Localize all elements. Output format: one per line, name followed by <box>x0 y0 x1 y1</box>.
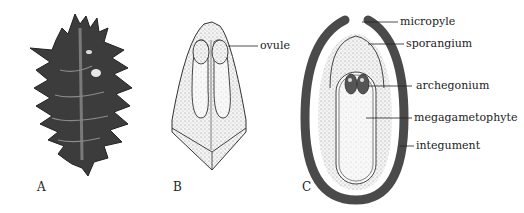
panel-c-ovule <box>305 20 414 200</box>
label-integument: integument <box>416 140 480 151</box>
figure-canvas <box>0 0 524 213</box>
label-megagametophyte: megagametophyte <box>414 112 517 123</box>
label-micropyle: micropyle <box>400 16 455 27</box>
label-sporangium: sporangium <box>406 38 472 49</box>
panel-a-cone <box>30 14 132 176</box>
label-ovule: ovule <box>260 40 290 51</box>
panel-letter-b: B <box>173 181 182 193</box>
panel-b-scale <box>172 22 258 170</box>
panel-letter-c: C <box>302 181 311 193</box>
panel-letter-a: A <box>37 181 46 193</box>
label-archegonium: archegonium <box>416 80 489 91</box>
